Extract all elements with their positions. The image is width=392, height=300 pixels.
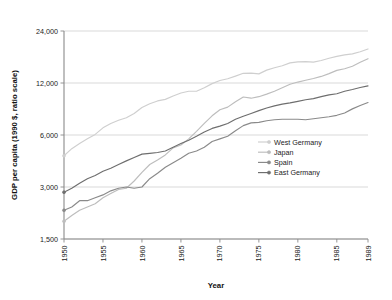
x-tick-label: 1985 [332,246,341,262]
x-tick-label: 1955 [99,246,108,262]
legend-group: West GermanyJapanSpainEast Germany [258,138,322,178]
gdp-per-capita-line-chart: 1,5003,0006,00012,00024,000 195019551960… [0,0,392,300]
series-start-marker [63,154,66,157]
x-tick-label: 1965 [177,246,186,262]
y-tick-label: 6,000 [40,131,58,140]
series-start-marker [63,191,66,194]
gridlines-group [64,31,368,239]
series-line [64,86,368,192]
series-start-marker [63,220,66,223]
x-axis-group: 195019551960196519701975198019851989 [60,239,373,262]
x-tick-label: 1975 [254,246,263,262]
x-tick-label: 1989 [364,246,373,262]
legend-item-label: East Germany [274,168,320,177]
x-axis-title: Year [208,281,224,290]
y-tick-label: 3,000 [40,183,58,192]
legend-swatch-marker [267,140,270,143]
legend-swatch-marker [267,161,270,164]
y-tick-label: 24,000 [36,27,58,36]
series-start-marker [63,209,66,212]
chart-canvas: 1,5003,0006,00012,00024,000 195019551960… [0,0,392,300]
x-tick-label: 1980 [293,246,302,262]
y-tick-label: 1,500 [40,235,58,244]
legend-swatch-marker [267,151,270,154]
x-tick-label: 1950 [60,246,69,262]
y-tick-label: 12,000 [36,79,58,88]
x-tick-label: 1960 [138,246,147,262]
legend-swatch-marker [267,171,270,174]
y-axis-title: GDP per capita (1990 $, ratio scale) [10,70,19,200]
y-axis-group: 1,5003,0006,00012,00024,000 [36,27,64,244]
x-tick-label: 1970 [215,246,224,262]
legend-item-label: Japan [274,148,294,157]
legend-item-label: West Germany [274,138,322,147]
legend-item-label: Spain [274,158,292,167]
